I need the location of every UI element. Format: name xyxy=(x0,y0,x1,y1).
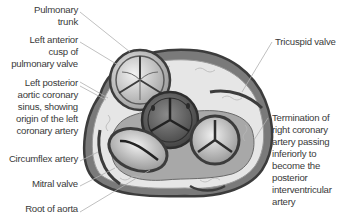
label-left-posterior-sinus: Left posterior aortic coronary sinus, sh… xyxy=(16,77,78,137)
label-mitral-valve: Mitral valve xyxy=(32,178,78,190)
label-left-anterior-cusp: Left anterior cusp of pulmonary valve xyxy=(11,34,78,70)
label-root-of-aorta: Root of aorta xyxy=(25,203,78,215)
label-termination-rca: Termination of right coronary artery pas… xyxy=(272,112,332,208)
tricuspid-valve xyxy=(191,116,239,164)
label-tricuspid-valve: Tricuspid valve xyxy=(275,36,336,48)
label-circumflex-artery: Circumflex artery xyxy=(9,153,78,165)
label-pulmonary-trunk: Pulmonary trunk xyxy=(34,4,78,28)
